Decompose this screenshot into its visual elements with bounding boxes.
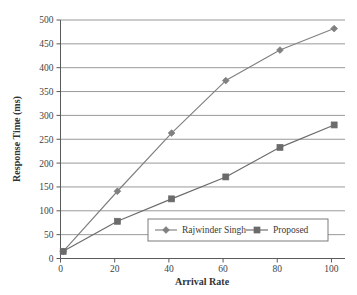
data-point-marker [277,47,284,54]
data-point-marker [331,25,338,32]
data-point-marker [169,196,175,202]
y-tick-label: 500 [39,15,54,25]
y-axis-title: Response Time (ms) [11,96,23,182]
legend-label: Proposed [273,225,309,235]
y-tick-label: 0 [49,254,54,264]
y-axis-tick-labels: 050100150200250300350400450500 [39,15,54,264]
x-tick-label: 100 [324,264,339,274]
data-point-marker [60,248,66,254]
y-axis-ticks [57,20,61,259]
y-tick-label: 450 [39,39,54,49]
y-tick-label: 50 [44,230,54,240]
y-tick-label: 150 [39,182,54,192]
data-point-marker [277,144,283,150]
legend: Rajwinder SinghProposed [148,219,328,241]
x-tick-label: 80 [273,264,283,274]
data-point-marker [331,122,337,128]
chart-figure: 050100150200250300350400450500 020406080… [0,0,357,295]
x-tick-label: 20 [110,264,120,274]
y-tick-label: 200 [39,159,54,169]
y-tick-label: 250 [39,135,54,145]
data-point-marker [223,174,229,180]
data-point-marker [114,218,120,224]
x-tick-label: 0 [58,264,63,274]
y-tick-label: 400 [39,63,54,73]
x-axis-title: Arrival Rate [175,276,230,287]
x-tick-label: 40 [164,264,174,274]
gridlines [61,20,346,235]
x-axis-tick-labels: 020406080100 [58,264,339,274]
x-tick-label: 60 [218,264,228,274]
data-point-marker [254,227,260,233]
legend-label: Rajwinder Singh [182,225,246,235]
x-axis-ticks [61,259,332,263]
y-tick-label: 100 [39,206,54,216]
series-line [63,29,334,252]
y-tick-label: 350 [39,87,54,97]
line-chart: 050100150200250300350400450500 020406080… [0,0,357,295]
y-tick-label: 300 [39,111,54,121]
